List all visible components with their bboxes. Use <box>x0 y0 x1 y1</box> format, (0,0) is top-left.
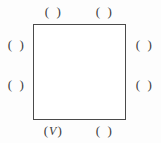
paren-close-icon: ) <box>57 123 62 138</box>
paren-open-icon: ( <box>44 123 49 138</box>
paren-slot-left-upper[interactable]: () <box>2 38 30 52</box>
paren-close-icon: ) <box>20 37 25 52</box>
paren-open-icon: ( <box>45 4 50 19</box>
paren-close-icon: ) <box>108 123 113 138</box>
paren-open-icon: ( <box>8 37 13 52</box>
paren-slot-top-left[interactable]: () <box>38 5 68 19</box>
paren-slot-left-lower[interactable]: () <box>2 78 30 92</box>
paren-slot-bottom-right[interactable]: () <box>89 124 119 138</box>
square-outline <box>33 24 126 120</box>
paren-close-icon: ) <box>148 37 153 52</box>
paren-slot-right-upper[interactable]: () <box>130 38 158 52</box>
paren-slot-right-lower[interactable]: () <box>130 78 158 92</box>
paren-close-icon: ) <box>57 4 62 19</box>
paren-open-icon: ( <box>8 77 13 92</box>
paren-slot-bottom-left[interactable]: (V) <box>38 124 68 138</box>
paren-close-icon: ) <box>20 77 25 92</box>
paren-slot-top-right[interactable]: () <box>89 5 119 19</box>
paren-open-icon: ( <box>96 123 101 138</box>
paren-close-icon: ) <box>108 4 113 19</box>
paren-open-icon: ( <box>136 77 141 92</box>
paren-open-icon: ( <box>96 4 101 19</box>
figure-canvas: () () () () () () (V) () <box>0 0 161 143</box>
paren-open-icon: ( <box>136 37 141 52</box>
paren-close-icon: ) <box>148 77 153 92</box>
